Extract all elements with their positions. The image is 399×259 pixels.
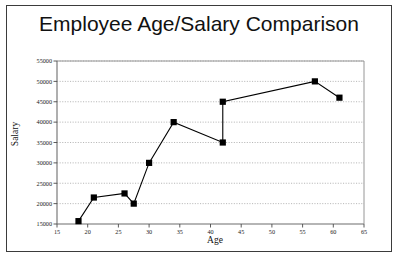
y-tick-label: 50000 (37, 78, 52, 85)
chart-plot-area: 1500020000250003000035000400004500050000… (7, 39, 393, 251)
x-tick-label: 25 (115, 228, 121, 235)
x-tick-label: 35 (177, 228, 183, 235)
data-point-marker (220, 139, 226, 145)
y-axis-ticks: 1500020000250003000035000400004500050000… (37, 57, 57, 227)
x-tick-label: 55 (300, 228, 306, 235)
y-tick-label: 55000 (37, 57, 52, 64)
x-axis-title: Age (207, 235, 223, 245)
data-point-marker (75, 218, 81, 224)
data-point-marker (131, 201, 137, 207)
chart-title: Employee Age/Salary Comparison (7, 12, 391, 36)
x-tick-label: 65 (361, 228, 367, 235)
data-point-marker (91, 194, 97, 200)
data-point-marker (312, 78, 318, 84)
x-tick-label: 45 (238, 228, 244, 235)
data-series-employees (75, 78, 342, 224)
y-tick-label: 30000 (37, 159, 52, 166)
data-point-marker (336, 95, 342, 101)
data-point-marker (171, 119, 177, 125)
data-point-marker (220, 99, 226, 105)
y-tick-label: 20000 (37, 200, 52, 207)
y-axis-title: Salary (10, 122, 20, 147)
x-tick-label: 15 (54, 228, 60, 235)
y-tick-label: 15000 (37, 220, 52, 227)
x-tick-label: 50 (269, 228, 275, 235)
data-point-marker (121, 190, 127, 196)
data-point-marker (146, 160, 152, 166)
y-tick-label: 45000 (37, 98, 52, 105)
y-tick-label: 25000 (37, 180, 52, 187)
x-tick-label: 30 (146, 228, 152, 235)
y-tick-label: 35000 (37, 139, 52, 146)
x-tick-label: 20 (85, 228, 91, 235)
x-axis-ticks: 1520253035404550556065 (54, 224, 367, 235)
y-tick-label: 40000 (37, 118, 52, 125)
x-tick-label: 40 (207, 228, 213, 235)
chart-container: Employee Age/Salary Comparison 150002000… (6, 5, 392, 252)
x-tick-label: 60 (330, 228, 336, 235)
